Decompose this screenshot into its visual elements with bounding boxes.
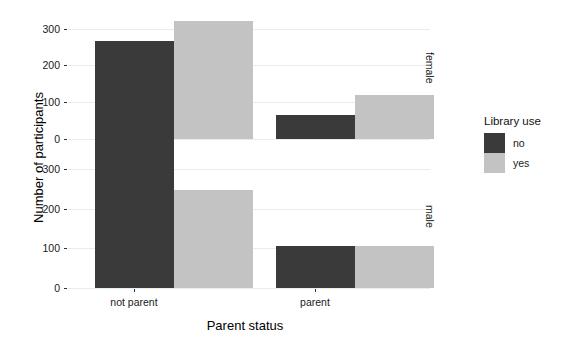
y-tick-mark	[64, 209, 67, 210]
x-tick-mark-parent	[315, 289, 316, 292]
strip-label-female: female	[424, 52, 436, 84]
y-tick-label: 0	[22, 134, 60, 144]
y-axis-title: Number of participants	[31, 43, 46, 273]
bar-female-not-parent-no[interactable]	[95, 41, 174, 139]
bar-male-not-parent-no[interactable]	[95, 136, 174, 288]
grid-line	[68, 288, 430, 289]
plot-area-female	[68, 14, 430, 139]
y-tick-mark	[64, 102, 67, 103]
y-tick-label: 300	[22, 24, 60, 34]
plot-area-male	[68, 153, 430, 288]
legend-label-no: no	[513, 137, 525, 149]
bar-male-not-parent-yes[interactable]	[174, 190, 253, 288]
legend-title: Library use	[484, 115, 584, 127]
x-tick-label-not-parent: not parent	[74, 296, 194, 308]
legend-swatch-no	[484, 133, 505, 153]
bar-male-parent-no[interactable]	[276, 246, 355, 288]
y-tick-mark	[64, 248, 67, 249]
y-tick-mark	[64, 288, 67, 289]
bar-female-parent-no[interactable]	[276, 115, 355, 139]
y-tick-label: 0	[22, 283, 60, 293]
legend-item-no[interactable]: no	[484, 133, 584, 153]
y-tick-label: 100	[22, 97, 60, 107]
legend-item-yes[interactable]: yes	[484, 153, 584, 173]
legend: Library use no yes	[484, 115, 584, 173]
y-tick-mark	[64, 65, 67, 66]
y-tick-mark	[64, 29, 67, 30]
y-tick-label: 200	[22, 204, 60, 214]
y-tick-label: 200	[22, 60, 60, 70]
strip-label-male: male	[424, 205, 436, 228]
y-tick-label: 100	[22, 243, 60, 253]
panel-female	[68, 14, 430, 139]
y-tick-mark	[64, 139, 67, 140]
bar-male-parent-yes[interactable]	[355, 246, 434, 288]
legend-swatch-yes	[484, 153, 505, 173]
bar-female-parent-yes[interactable]	[355, 95, 434, 139]
bar-female-not-parent-yes[interactable]	[174, 21, 253, 139]
x-tick-label-parent: parent	[255, 296, 375, 308]
x-tick-mark-not-parent	[134, 289, 135, 292]
panel-male	[68, 153, 430, 288]
y-tick-mark	[64, 169, 67, 170]
y-tick-label: 300	[22, 164, 60, 174]
bar-chart: Number of participants 01002003000100200…	[0, 0, 587, 344]
legend-label-yes: yes	[513, 157, 529, 169]
x-axis-title: Parent status	[60, 318, 430, 333]
